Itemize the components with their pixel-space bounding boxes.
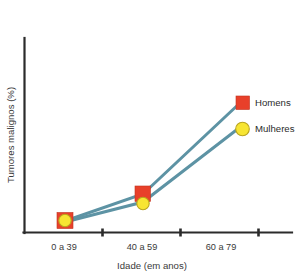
legend-swatch-homens bbox=[236, 96, 250, 110]
series-line-mulheres bbox=[65, 128, 239, 222]
legend-label-mulheres: Mulheres bbox=[255, 123, 295, 134]
y-axis-title: Tumores malignos (%) bbox=[5, 87, 16, 183]
legend-label-homens: Homens bbox=[255, 97, 291, 108]
legend-swatch-mulheres bbox=[236, 122, 250, 136]
x-axis-title: Idade (em anos) bbox=[117, 260, 187, 271]
marker-mulheres-40a59 bbox=[137, 197, 149, 209]
x-tick-label-0: 0 a 39 bbox=[51, 242, 77, 252]
marker-mulheres-0a39 bbox=[59, 214, 71, 226]
chart-container: Homens Mulheres 0 a 39 40 a 59 60 a 79 I… bbox=[0, 0, 306, 277]
malignant-tumors-by-age-line-chart: Homens Mulheres 0 a 39 40 a 59 60 a 79 I… bbox=[0, 0, 306, 277]
x-tick-label-2: 60 a 79 bbox=[206, 242, 237, 252]
series-line-homens bbox=[65, 102, 241, 221]
x-tick-label-1: 40 a 59 bbox=[127, 242, 158, 252]
